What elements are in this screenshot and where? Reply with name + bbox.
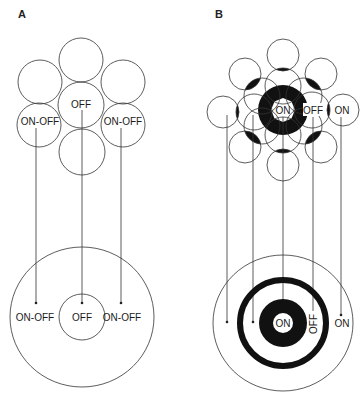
panel-b-label: B	[215, 8, 223, 20]
projection-dot-center	[81, 302, 84, 305]
receptor-circle-upper-left	[18, 60, 62, 104]
receptor-circle-top	[59, 38, 103, 82]
receptor-circle-outer-upper-right	[305, 58, 337, 90]
panel-a-label: A	[18, 8, 26, 20]
receptor-circle-upper-right	[101, 60, 145, 104]
field-label-center: OFF	[72, 312, 92, 323]
panel-b-projection-lines	[226, 115, 343, 323]
field-label-left: ON-OFF	[16, 312, 54, 323]
receptor-circle-outer-top	[267, 39, 299, 71]
panel-a-projection-lines	[35, 110, 123, 304]
cluster-label-outer-right: ON	[335, 105, 350, 116]
cluster-label-inner-right: OFF	[303, 105, 323, 116]
cluster-label-center: ON	[276, 105, 291, 116]
field-label-surround: ON	[335, 318, 350, 329]
cluster-label-left: ON-OFF	[21, 116, 59, 127]
field-label-center: ON	[276, 318, 291, 329]
projection-dot-right	[120, 302, 123, 305]
field-label-ring: OFF	[308, 314, 319, 334]
receptor-circle-outer-lower-left	[229, 131, 261, 163]
cluster-label-right: ON-OFF	[104, 116, 142, 127]
projection-dot-left	[35, 302, 38, 305]
cluster-label-center: OFF	[71, 99, 91, 110]
receptive-field-diagram: A OFF ON-OFF ON-OFF ON-OFF OFF	[0, 0, 363, 399]
projection-dot-5	[340, 314, 343, 317]
receptor-circle-outer-upper-left	[229, 58, 261, 90]
panel-a: A OFF ON-OFF ON-OFF ON-OFF OFF	[10, 8, 154, 387]
panel-b: B	[207, 8, 359, 391]
receptor-circle-outer-lower-right	[305, 131, 337, 163]
projection-dot-2	[252, 321, 255, 324]
projection-dot-1	[226, 321, 229, 324]
field-label-right: ON-OFF	[103, 312, 141, 323]
receptor-circle-outer-left	[207, 96, 239, 128]
